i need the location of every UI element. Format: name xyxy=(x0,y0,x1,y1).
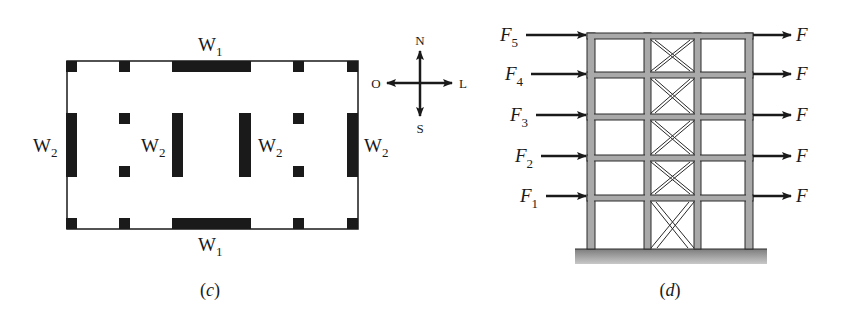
column xyxy=(119,166,130,177)
column xyxy=(66,218,77,229)
x-bracing xyxy=(651,40,694,248)
caption-c: (c) xyxy=(200,280,220,301)
force-label-f4: F4 xyxy=(504,63,524,89)
column xyxy=(66,61,77,72)
ground xyxy=(575,249,767,264)
caption-d: (d) xyxy=(660,280,681,301)
brace-story-3 xyxy=(651,121,694,154)
wall-w2-inner-left xyxy=(172,113,183,177)
wall-w2-inner-right xyxy=(239,113,251,177)
force-label-f: F xyxy=(795,145,808,166)
force-label-f: F xyxy=(795,104,808,125)
label-w1-top: W1 xyxy=(198,34,222,59)
force-label-f1: F1 xyxy=(519,185,538,211)
panel-c-floor-plan: W1 W1 W2 W2 W2 W2 N S O L (c) xyxy=(33,33,467,301)
compass-label-south: S xyxy=(416,121,423,136)
compass-label-north: N xyxy=(415,33,425,48)
label-w2-inner-left: W2 xyxy=(141,135,165,160)
label-w2-left: W2 xyxy=(33,135,57,160)
column xyxy=(293,218,304,229)
compass-label-west: O xyxy=(371,76,380,91)
brace-story-4 xyxy=(651,79,694,113)
shear-walls xyxy=(66,61,358,229)
wall-w1-top xyxy=(172,61,251,72)
label-w2-inner-right: W2 xyxy=(258,135,282,160)
compass-rose: N S O L xyxy=(371,33,467,136)
force-label-f3: F3 xyxy=(509,104,528,130)
diagram-canvas: W1 W1 W2 W2 W2 W2 N S O L (c) xyxy=(0,0,856,327)
wall-w2-left xyxy=(66,113,77,177)
right-force-labels: F F F F F xyxy=(795,24,808,206)
columns xyxy=(66,61,358,229)
wall-w2-right xyxy=(347,113,358,177)
column xyxy=(347,61,358,72)
column xyxy=(293,166,304,177)
brace-story-1 xyxy=(651,202,694,248)
compass-label-east: L xyxy=(459,76,467,91)
brace-story-2 xyxy=(651,162,694,194)
wall-w1-bottom xyxy=(172,218,251,229)
label-w1-bottom: W1 xyxy=(198,234,222,259)
column xyxy=(347,218,358,229)
column xyxy=(293,113,304,124)
label-w2-right: W2 xyxy=(364,135,388,160)
brace-story-5 xyxy=(651,40,694,71)
right-force-arrows xyxy=(753,35,791,196)
force-label-f: F xyxy=(795,185,808,206)
left-force-arrows xyxy=(526,35,586,196)
column xyxy=(119,61,130,72)
force-label-f: F xyxy=(795,63,808,84)
force-label-f2: F2 xyxy=(514,145,533,171)
building-outline xyxy=(67,61,358,229)
force-label-f: F xyxy=(795,24,808,45)
column xyxy=(119,113,130,124)
column xyxy=(293,61,304,72)
left-force-labels: F5 F4 F3 F2 F1 xyxy=(499,24,538,211)
force-label-f5: F5 xyxy=(499,24,518,50)
column xyxy=(119,218,130,229)
panel-d-braced-frame: F5 F4 F3 F2 F1 F F F F F (d) xyxy=(499,24,808,301)
